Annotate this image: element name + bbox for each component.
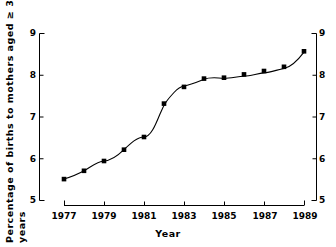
y-axis-left xyxy=(40,34,45,201)
data-line xyxy=(64,52,304,179)
data-point xyxy=(82,169,87,174)
data-point xyxy=(62,177,67,182)
data-point xyxy=(282,65,287,70)
chart-figure: Percentage of births to mothers aged ≥ 3… xyxy=(0,0,336,247)
data-point xyxy=(162,101,167,106)
data-point xyxy=(202,76,207,81)
data-point xyxy=(302,49,307,54)
data-markers xyxy=(62,49,307,181)
plot-area xyxy=(0,0,336,247)
data-point xyxy=(242,72,247,77)
data-point xyxy=(222,75,227,80)
x-axis xyxy=(64,201,305,206)
data-point xyxy=(182,85,187,90)
data-point xyxy=(262,69,267,74)
data-point xyxy=(102,159,107,164)
y-axis-right xyxy=(312,34,317,201)
data-point xyxy=(122,147,127,152)
data-point xyxy=(142,135,147,140)
